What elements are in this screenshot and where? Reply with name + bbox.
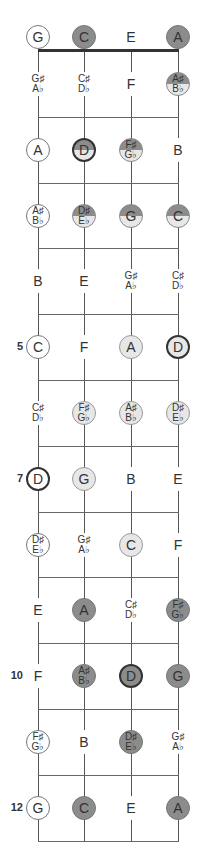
note-label-alt: A♭ xyxy=(125,281,137,291)
note-label: G xyxy=(126,209,137,223)
note-label-alt: D♭ xyxy=(78,84,90,94)
fret-line-7 xyxy=(38,512,179,513)
fretboard-diagram: GCEAG♯A♭C♯D♭FA♯B♭ADF♯G♭BA♯B♭D♯E♭GCBEG♯A♭… xyxy=(0,0,203,845)
note-label: A xyxy=(173,30,182,44)
note-fret9-string3: F♯G♭ xyxy=(166,598,190,622)
note-fret6-string3: D♯E♭ xyxy=(166,401,190,425)
note-label: A xyxy=(79,603,88,617)
note-fret6-string0: C♯D♭ xyxy=(26,401,50,425)
note-fret3-string2: G xyxy=(119,204,143,228)
note-fret10-string2: D xyxy=(119,664,143,688)
note-fret4-string1: E xyxy=(72,269,96,293)
note-fret7-string0: D xyxy=(26,467,50,491)
note-label: B xyxy=(33,274,42,288)
note-label: E xyxy=(79,274,88,288)
note-fret7-string3: E xyxy=(166,467,190,491)
note-label: B xyxy=(173,143,182,157)
note-fret0-string1: C xyxy=(72,25,96,49)
note-fret0-string2: E xyxy=(119,25,143,49)
note-fret3-string0: A♯B♭ xyxy=(26,204,50,228)
note-label-alt: B♭ xyxy=(78,676,90,686)
fret-line-9 xyxy=(38,643,179,644)
note-fret11-string0: F♯G♭ xyxy=(26,730,50,754)
note-label: C xyxy=(33,340,43,354)
note-label: E xyxy=(33,603,42,617)
nut xyxy=(38,49,179,52)
note-fret9-string2: C♯D♭ xyxy=(119,598,143,622)
note-fret2-string3: B xyxy=(166,138,190,162)
fret-line-6 xyxy=(38,446,179,447)
note-fret9-string0: E xyxy=(26,598,50,622)
note-fret12-string2: E xyxy=(119,796,143,820)
note-fret5-string1: F xyxy=(72,335,96,359)
note-label-alt: E♭ xyxy=(125,742,137,752)
note-label-alt: G♭ xyxy=(32,742,45,752)
note-fret7-string2: B xyxy=(119,467,143,491)
note-label: E xyxy=(126,801,135,815)
note-label-alt: A♭ xyxy=(172,742,184,752)
note-fret5-string2: A xyxy=(119,335,143,359)
note-label: G xyxy=(173,669,184,683)
note-label: A xyxy=(126,340,135,354)
note-label-alt: G♭ xyxy=(172,610,185,620)
note-fret12-string3: A xyxy=(166,796,190,820)
fret-line-5 xyxy=(38,380,179,381)
note-fret5-string3: D xyxy=(166,335,190,359)
note-label-alt: B♭ xyxy=(32,216,44,226)
note-label-alt: E♭ xyxy=(32,545,44,555)
note-label-alt: D♭ xyxy=(32,413,44,423)
note-label: C xyxy=(173,209,183,223)
note-fret5-string0: C xyxy=(26,335,50,359)
note-fret2-string1: D xyxy=(72,138,96,162)
note-fret0-string0: G xyxy=(26,25,50,49)
note-fret4-string3: C♯D♭ xyxy=(166,269,190,293)
note-fret8-string3: F xyxy=(166,533,190,557)
note-label: C xyxy=(79,30,89,44)
fret-line-12 xyxy=(38,841,179,842)
note-fret1-string0: G♯A♭ xyxy=(26,72,50,96)
note-fret1-string3: A♯B♭ xyxy=(166,72,190,96)
fret-line-2 xyxy=(38,183,179,184)
fret-line-3 xyxy=(38,248,179,249)
note-label: A xyxy=(173,801,182,815)
note-fret2-string2: F♯G♭ xyxy=(119,138,143,162)
note-fret6-string1: F♯G♭ xyxy=(72,401,96,425)
note-label-alt: G♭ xyxy=(78,413,91,423)
note-fret9-string1: A xyxy=(72,598,96,622)
note-fret3-string3: C xyxy=(166,204,190,228)
fret-number-10: 10 xyxy=(5,669,23,681)
fret-line-11 xyxy=(38,775,179,776)
note-label-alt: A♭ xyxy=(78,545,90,555)
note-label: D xyxy=(79,143,89,157)
note-label: E xyxy=(126,30,135,44)
fret-number-7: 7 xyxy=(5,472,23,484)
note-fret10-string1: A♯B♭ xyxy=(72,664,96,688)
note-label: F xyxy=(34,669,43,683)
note-label-alt: D♭ xyxy=(172,281,184,291)
note-fret8-string1: G♯A♭ xyxy=(72,533,96,557)
note-label: G xyxy=(33,30,44,44)
note-fret7-string1: G xyxy=(72,467,96,491)
note-label: F xyxy=(174,538,183,552)
note-fret10-string3: G xyxy=(166,664,190,688)
note-fret6-string2: A♯B♭ xyxy=(119,401,143,425)
note-fret4-string2: G♯A♭ xyxy=(119,269,143,293)
note-fret2-string0: A xyxy=(26,138,50,162)
note-label-alt: A♭ xyxy=(32,84,44,94)
note-label: F xyxy=(80,340,89,354)
note-label-alt: B♭ xyxy=(172,84,184,94)
note-fret0-string3: A xyxy=(166,25,190,49)
fret-line-1 xyxy=(38,117,179,118)
note-fret1-string2: F xyxy=(119,72,143,96)
note-fret11-string1: B xyxy=(72,730,96,754)
fret-line-4 xyxy=(38,314,179,315)
note-fret1-string1: C♯D♭ xyxy=(72,72,96,96)
note-fret8-string0: D♯E♭ xyxy=(26,533,50,557)
note-fret12-string0: G xyxy=(26,796,50,820)
note-label: B xyxy=(79,735,88,749)
note-fret12-string1: C xyxy=(72,796,96,820)
fret-number-5: 5 xyxy=(5,340,23,352)
note-label: E xyxy=(173,472,182,486)
note-label: D xyxy=(33,472,43,486)
note-label: D xyxy=(126,669,136,683)
